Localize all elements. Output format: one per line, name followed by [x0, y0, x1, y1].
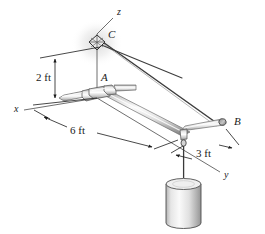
ext-line-6ft-start	[34, 110, 50, 119]
eyelet-block	[180, 129, 187, 140]
dimension-label-2ft: 2 ft	[36, 72, 51, 83]
statics-diagram-svg	[0, 0, 265, 234]
y-axis-line	[97, 98, 220, 172]
ext-line-3ft-start	[171, 146, 183, 153]
figure-canvas: z x y C A B 2 ft 6 ft 3 ft	[0, 0, 265, 234]
cable-c-to-b	[100, 40, 218, 124]
dim-arrow-6ft-right	[97, 133, 152, 147]
hook-eyelet	[180, 129, 187, 178]
eye-ring	[181, 140, 186, 146]
point-label-c: C	[108, 29, 115, 40]
ext-line-3ft-end	[226, 129, 239, 145]
point-label-a: A	[101, 72, 108, 83]
axis-label-y: y	[224, 170, 228, 180]
suspended-weight	[166, 179, 201, 229]
dimension-label-6ft: 6 ft	[70, 125, 85, 136]
cylinder-body	[166, 184, 201, 229]
shaft-stub-right	[114, 85, 136, 91]
point-label-b: B	[234, 116, 241, 127]
axis-label-x: x	[14, 104, 18, 114]
cylinder-top	[166, 179, 201, 190]
cable-group	[99, 40, 218, 126]
axis-label-z: z	[117, 7, 121, 17]
cross-rod-b	[181, 118, 227, 131]
dimension-label-3ft: 3 ft	[196, 148, 211, 159]
dim-arrow-6ft-left	[44, 117, 67, 127]
dim-arrow-3ft-right	[219, 145, 232, 148]
cable-c-to-b-highlight	[101, 42, 216, 126]
